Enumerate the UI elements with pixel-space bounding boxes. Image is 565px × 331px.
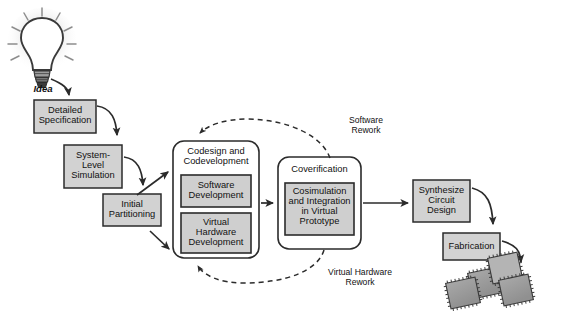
node-virtual-hardware-development[interactable] bbox=[181, 213, 251, 253]
edge-system-level-simulation-to-initial-partitioning bbox=[124, 157, 143, 185]
edge-idea-to-detailed-specification bbox=[51, 79, 69, 95]
edge-detailed-specification-to-system-level-simulation bbox=[97, 106, 117, 135]
node-cosimulation-and-integration[interactable] bbox=[285, 183, 354, 235]
node-initial-partitioning[interactable] bbox=[103, 194, 161, 226]
edge-initial-partitioning-to-codesign bbox=[150, 231, 169, 249]
edge-synthesize-to-fabrication bbox=[472, 188, 493, 224]
diagram-vector-layer bbox=[0, 0, 565, 331]
node-system-level-simulation[interactable] bbox=[64, 145, 122, 188]
node-fabrication[interactable] bbox=[443, 233, 500, 260]
diagram-canvas: Idea Detailed Specification System- Leve… bbox=[0, 0, 565, 331]
node-detailed-specification[interactable] bbox=[34, 100, 96, 133]
lightbulb-icon bbox=[8, 8, 76, 88]
node-software-development[interactable] bbox=[181, 175, 251, 207]
node-synthesize-circuit-design[interactable] bbox=[413, 180, 470, 222]
chip-2 bbox=[443, 274, 484, 312]
